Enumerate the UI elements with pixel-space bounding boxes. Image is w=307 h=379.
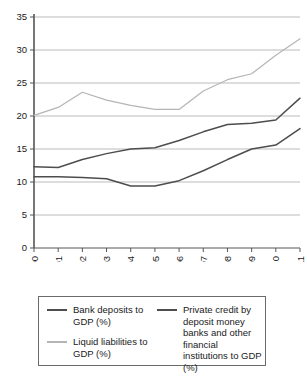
legend-swatch-liquid-liabilities [47,341,67,343]
legend-label-bank-deposits: Bank deposits to GDP (%) [73,304,157,327]
x-axis-tick-label: 2006 [174,256,185,262]
y-axis-tick-label: 20 [16,110,27,121]
series-line [34,129,300,186]
y-axis-tick-label: 35 [16,11,27,22]
x-axis-tick-label: 2003 [101,256,112,262]
legend-column-left: Bank deposits to GDP (%) Liquid liabilit… [47,304,157,365]
y-axis-tick-label: 5 [22,209,27,220]
chart-legend: Bank deposits to GDP (%) Liquid liabilit… [38,296,266,366]
plot-area: 0510152025303520002001200220032004200520… [0,0,307,262]
legend-label-liquid-liabilities: Liquid liabilities to GDP (%) [73,336,157,359]
chart-container: 0510152025303520002001200220032004200520… [0,0,307,379]
y-axis-tick-label: 10 [16,176,27,187]
series-line [34,98,300,167]
legend-swatch-private-credit [157,309,177,311]
legend-item-bank-deposits: Bank deposits to GDP (%) [47,304,157,327]
x-axis-tick-label: 2000 [29,256,40,262]
legend-column-right: Private credit by deposit money banks an… [157,304,265,365]
x-axis-tick-label: 2009 [246,256,257,262]
y-axis-tick-label: 25 [16,77,27,88]
x-axis-tick-label: 2011 [295,256,306,262]
x-axis-tick-label: 2008 [222,256,233,262]
x-axis-tick-label: 2007 [198,256,209,262]
legend-swatch-bank-deposits [47,309,67,311]
x-axis-tick-label: 2001 [53,256,64,262]
y-axis-tick-label: 30 [16,44,27,55]
legend-label-private-credit: Private credit by deposit money banks an… [183,304,265,373]
y-axis-tick-label: 0 [22,242,27,253]
legend-item-private-credit: Private credit by deposit money banks an… [157,304,265,373]
x-axis-tick-label: 2002 [77,256,88,262]
x-axis-tick-label: 2004 [125,256,136,262]
x-axis-tick-label: 2010 [270,256,281,262]
y-axis-tick-label: 15 [16,143,27,154]
line-chart-svg: 0510152025303520002001200220032004200520… [0,0,307,262]
x-axis-tick-label: 2005 [150,256,161,262]
legend-item-liquid-liabilities: Liquid liabilities to GDP (%) [47,336,157,359]
